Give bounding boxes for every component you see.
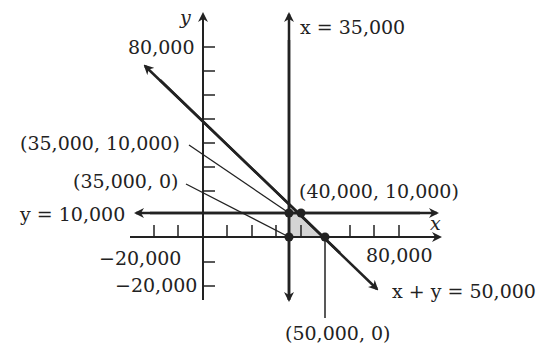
label-point-35000-0: (35,000, 0): [73, 170, 178, 192]
y-axis: [203, 14, 215, 300]
graph-canvas: y x 80,000 80,000 −20,000 −20,000 x = 35…: [0, 0, 544, 345]
y-tick-label-neg-2: −20,000: [115, 274, 197, 296]
vertex-35000-0: [285, 233, 294, 242]
label-point-35000-10000: (35,000, 10,000): [20, 132, 180, 154]
vertex-50000-0: [321, 233, 330, 242]
label-y-10000: y = 10,000: [19, 203, 125, 225]
linear-programming-figure: y x 80,000 80,000 −20,000 −20,000 x = 35…: [0, 0, 544, 345]
y-tick-label-80000: 80,000: [128, 36, 194, 58]
y-axis-label: y: [179, 6, 191, 28]
label-x-35000: x = 35,000: [300, 16, 405, 38]
label-point-50000-0: (50,000, 0): [285, 322, 390, 344]
vertex-35000-10000: [285, 209, 294, 218]
label-x-plus-y-50000: x + y = 50,000: [392, 280, 536, 302]
x-tick-label-80000: 80,000: [366, 244, 432, 266]
label-point-40000-10000: (40,000, 10,000): [299, 180, 459, 202]
y-tick-label-neg-1: −20,000: [99, 247, 181, 269]
vertex-40000-10000: [297, 209, 306, 218]
leader-35000-0: [186, 184, 289, 237]
x-axis-label: x: [430, 212, 441, 234]
